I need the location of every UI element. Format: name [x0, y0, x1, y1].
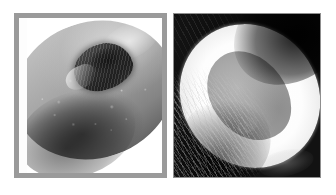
left-panel-mount — [19, 18, 162, 173]
figure-root — [0, 0, 336, 195]
panel-left-stone-fruit — [14, 13, 167, 178]
panel-right-coconut — [173, 13, 321, 178]
stone-fruit-half-icon — [27, 18, 162, 173]
